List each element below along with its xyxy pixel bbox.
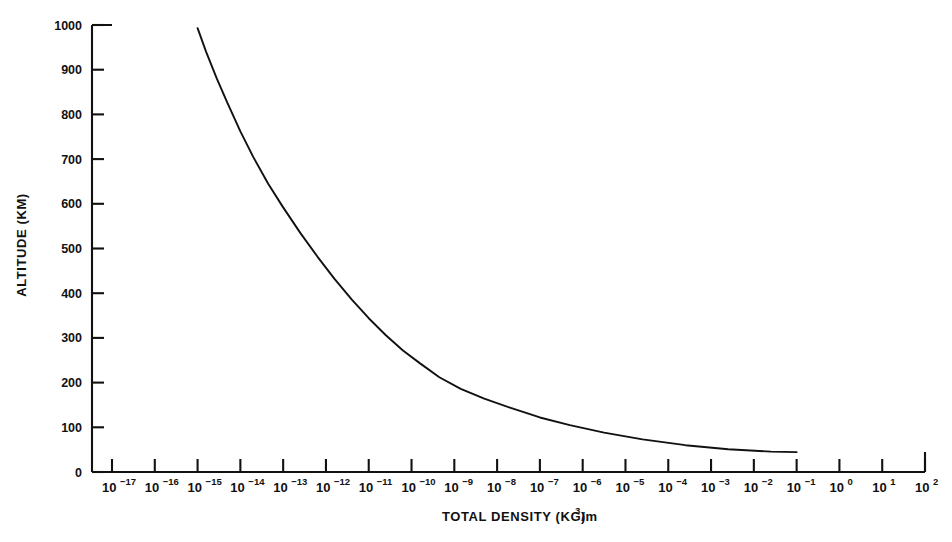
- x-tick-exponent: −11: [377, 476, 393, 487]
- x-tick-exponent: −8: [505, 476, 516, 487]
- x-axis-ticks: [112, 459, 925, 472]
- x-tick-exponent: −10: [420, 476, 436, 487]
- x-tick-exponent: −3: [719, 476, 730, 487]
- x-tick-label: 10−10: [402, 476, 436, 495]
- y-tick-label: 400: [61, 287, 82, 301]
- y-tick-label: 0: [75, 466, 82, 480]
- y-tick-label: 300: [61, 331, 82, 345]
- y-tick-label: 600: [61, 197, 82, 211]
- x-tick-label: 10−13: [273, 476, 307, 495]
- x-tick-mantissa: 10: [787, 480, 801, 495]
- x-tick-label: 10−9: [444, 476, 473, 495]
- x-tick-exponent: −1: [805, 476, 817, 487]
- x-tick-label: 101: [872, 476, 896, 495]
- x-tick-exponent: −13: [291, 476, 307, 487]
- y-axis-title-label: ALTITUDE (KM): [14, 193, 29, 297]
- x-tick-mantissa: 10: [359, 480, 373, 495]
- y-tick-label: 1000: [54, 19, 82, 33]
- x-tick-exponent: −15: [206, 476, 223, 487]
- y-axis-title: ALTITUDE (KM): [14, 193, 29, 297]
- x-tick-label: 10−2: [744, 476, 773, 495]
- x-tick-mantissa: 10: [402, 480, 416, 495]
- x-tick-exponent: 0: [847, 476, 852, 487]
- x-tick-mantissa: 10: [530, 480, 544, 495]
- x-tick-label: 10−1: [787, 476, 817, 495]
- x-tick-mantissa: 10: [701, 480, 715, 495]
- x-tick-mantissa: 10: [145, 480, 159, 495]
- y-axis-ticks: [92, 25, 104, 472]
- x-tick-mantissa: 10: [444, 480, 458, 495]
- x-tick-label: 10−5: [615, 476, 645, 495]
- x-axis-tick-labels: 10−1710−1610−1510−1410−1310−1210−1110−10…: [102, 476, 938, 495]
- x-tick-exponent: −9: [462, 476, 473, 487]
- x-tick-exponent: −16: [163, 476, 179, 487]
- x-tick-mantissa: 10: [915, 480, 929, 495]
- x-tick-label: 10−8: [487, 476, 516, 495]
- x-tick-label: 100: [829, 476, 852, 495]
- y-tick-label: 500: [61, 242, 82, 256]
- axis-lines: [92, 25, 925, 472]
- x-tick-mantissa: 10: [316, 480, 330, 495]
- chart-canvas: 01002003004005006007008009001000 10−1710…: [0, 0, 952, 542]
- x-tick-exponent: −12: [334, 476, 350, 487]
- x-tick-mantissa: 10: [872, 480, 886, 495]
- x-tick-exponent: 2: [933, 476, 938, 487]
- y-axis-tick-labels: 01002003004005006007008009001000: [54, 19, 82, 480]
- y-tick-label: 200: [61, 376, 82, 390]
- x-tick-exponent: −14: [248, 476, 265, 487]
- x-tick-label: 10−16: [145, 476, 179, 495]
- x-tick-label: 102: [915, 476, 938, 495]
- y-tick-label: 100: [61, 421, 82, 435]
- x-tick-exponent: −7: [548, 476, 559, 487]
- x-tick-exponent: −5: [633, 476, 645, 487]
- x-tick-label: 10−14: [230, 476, 265, 495]
- x-tick-mantissa: 10: [188, 480, 202, 495]
- x-tick-exponent: 1: [890, 476, 896, 487]
- y-tick-label: 900: [61, 63, 82, 77]
- x-tick-mantissa: 10: [487, 480, 501, 495]
- x-axis-title: TOTAL DENSITY (KG/m 3 ): [442, 505, 598, 524]
- x-tick-mantissa: 10: [102, 480, 116, 495]
- x-tick-mantissa: 10: [744, 480, 758, 495]
- x-axis-title-close: ): [581, 509, 586, 524]
- x-tick-exponent: −2: [762, 476, 773, 487]
- x-tick-label: 10−4: [658, 476, 688, 495]
- x-tick-mantissa: 10: [573, 480, 587, 495]
- x-tick-mantissa: 10: [829, 480, 843, 495]
- x-tick-mantissa: 10: [615, 480, 629, 495]
- x-tick-mantissa: 10: [658, 480, 672, 495]
- x-tick-mantissa: 10: [273, 480, 287, 495]
- y-tick-label: 700: [61, 153, 82, 167]
- x-tick-label: 10−11: [359, 476, 393, 495]
- density-curve: [198, 28, 797, 452]
- altitude-density-chart: 01002003004005006007008009001000 10−1710…: [0, 0, 952, 542]
- x-tick-exponent: −17: [120, 476, 136, 487]
- x-tick-label: 10−12: [316, 476, 350, 495]
- x-tick-exponent: −6: [591, 476, 602, 487]
- x-tick-exponent: −4: [676, 476, 688, 487]
- x-tick-label: 10−17: [102, 476, 136, 495]
- x-tick-label: 10−7: [530, 476, 559, 495]
- y-tick-label: 800: [61, 108, 82, 122]
- x-axis-title-exponent: 3: [575, 505, 580, 516]
- x-tick-label: 10−6: [573, 476, 602, 495]
- x-tick-label: 10−15: [188, 476, 223, 495]
- x-tick-label: 10−3: [701, 476, 730, 495]
- x-tick-mantissa: 10: [230, 480, 244, 495]
